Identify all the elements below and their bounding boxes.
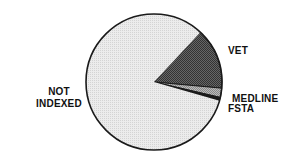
label-fsta: FSTA	[228, 103, 254, 115]
pie-chart-svg	[0, 0, 297, 162]
pie-chart: NOT INDEXED VET MEDLINE FSTA	[0, 0, 297, 162]
label-vet: VET	[228, 45, 248, 57]
label-not-indexed-line1: NOT	[34, 86, 84, 98]
label-not-indexed-line2: INDEXED	[34, 98, 84, 110]
label-not-indexed: NOT INDEXED	[34, 86, 84, 110]
